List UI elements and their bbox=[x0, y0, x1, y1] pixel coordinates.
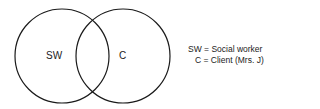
client-label: C bbox=[119, 50, 126, 61]
social-worker-label: SW bbox=[46, 50, 62, 61]
legend: SW = Social worker C = Client (Mrs. J) bbox=[188, 44, 264, 66]
legend-item-sw: SW = Social worker bbox=[188, 44, 264, 55]
legend-item-c: C = Client (Mrs. J) bbox=[188, 55, 264, 66]
